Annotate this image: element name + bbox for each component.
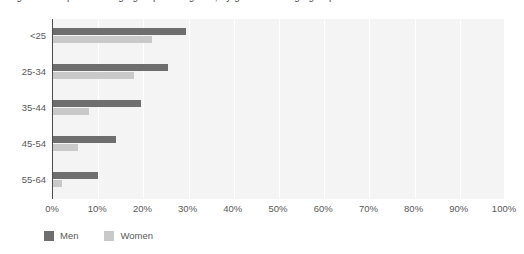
gridline [505, 19, 506, 199]
y-axis-label: <25 [0, 31, 46, 41]
legend-item-men[interactable]: Men [44, 230, 78, 241]
bar-groups [53, 19, 504, 199]
legend-label: Men [60, 230, 78, 241]
chart-legend: MenWomen [44, 230, 153, 241]
bar-women [53, 144, 78, 151]
bar-women [53, 72, 134, 79]
x-axis-tick-label: 90% [449, 203, 468, 214]
bar-women [53, 36, 152, 43]
bar-women [53, 108, 89, 115]
y-axis-label: 35-44 [0, 103, 46, 113]
x-axis-tick-label: 100% [492, 203, 516, 214]
y-axis-label: 45-54 [0, 139, 46, 149]
bar-men [53, 172, 98, 179]
bar-women [53, 180, 62, 187]
legend-swatch-icon [104, 231, 114, 241]
bar-group [53, 127, 504, 163]
bar-group [53, 163, 504, 199]
y-axis-labels: <2525-3435-4445-5455-64 [0, 19, 46, 199]
bar-men [53, 136, 116, 143]
x-axis-tick-label: 70% [359, 203, 378, 214]
x-axis-tick-label: 20% [133, 203, 152, 214]
x-axis-tick-label: 50% [268, 203, 287, 214]
bar-men [53, 100, 141, 107]
x-axis-tick-label: 30% [178, 203, 197, 214]
x-axis-tick-label: 40% [223, 203, 242, 214]
plot-area [52, 19, 504, 199]
y-axis-label: 25-34 [0, 67, 46, 77]
bar-men [53, 64, 168, 71]
bar-men [53, 28, 186, 35]
bar-group [53, 55, 504, 91]
x-axis-tick-label: 0% [45, 203, 59, 214]
y-axis-label: 55-64 [0, 175, 46, 185]
x-axis-tick-label: 60% [314, 203, 333, 214]
bar-group [53, 19, 504, 55]
x-axis-tick-label: 80% [404, 203, 423, 214]
bar-chart: Figure 3. Proportion of age group who ag… [0, 0, 524, 254]
legend-swatch-icon [44, 231, 54, 241]
legend-label: Women [120, 230, 153, 241]
x-axis-tick-label: 10% [88, 203, 107, 214]
x-axis-labels: 0%10%20%30%40%50%60%70%80%90%100% [52, 203, 504, 217]
bar-group [53, 91, 504, 127]
chart-title: Figure 3. Proportion of age group who ag… [8, 0, 335, 3]
legend-item-women[interactable]: Women [104, 230, 153, 241]
